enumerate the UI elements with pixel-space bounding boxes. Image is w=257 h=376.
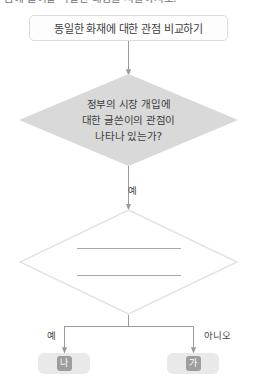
decision-question-text: 정부의 시장 개입에 대한 글쓴이의 관점이 나타나 있는가? [19,74,238,166]
decision-question-line-3: 나타나 있는가? [95,129,162,144]
blank-answer-line-1 [77,248,181,249]
decision-question-line-1: 정부의 시장 개입에 [87,97,171,112]
edge-label-no-right: 아니오 [204,328,230,342]
blank-answer-lines [19,209,238,315]
edge-label-yes-left: 예 [47,328,56,342]
flowchart-title-label: 동일한 화재에 대한 관점 비교하기 [54,20,203,36]
decision-node-question: 정부의 시장 개입에 대한 글쓴이의 관점이 나타나 있는가? [19,74,238,166]
result-node-left: 나 [38,353,90,374]
edge-label-yes-middle: 예 [128,183,137,197]
result-chip-right: 가 [186,356,201,371]
decision-question-line-2: 대한 글쓴이의 관점이 [82,113,175,128]
blank-answer-line-2 [77,275,181,276]
decision-node-blank [19,209,238,315]
clipped-heading-text: 음에 들어갈 적절한 내용을 서술하시오. [4,0,253,5]
result-chip-left: 나 [57,356,72,371]
flowchart-title-box: 동일한 화재에 대한 관점 비교하기 [29,15,228,41]
result-node-right: 가 [167,353,219,374]
